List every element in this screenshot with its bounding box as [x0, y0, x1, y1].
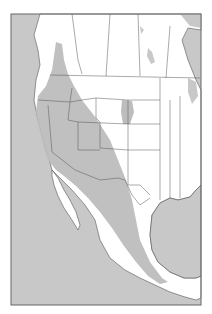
range-map	[0, 0, 212, 314]
map-svg	[0, 0, 212, 314]
